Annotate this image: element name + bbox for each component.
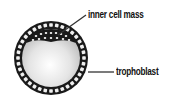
blastocyst-diagram (0, 0, 172, 104)
trophoblast-label: trophoblast (116, 66, 158, 77)
inner-cell-mass-label: inner cell mass (88, 9, 144, 20)
